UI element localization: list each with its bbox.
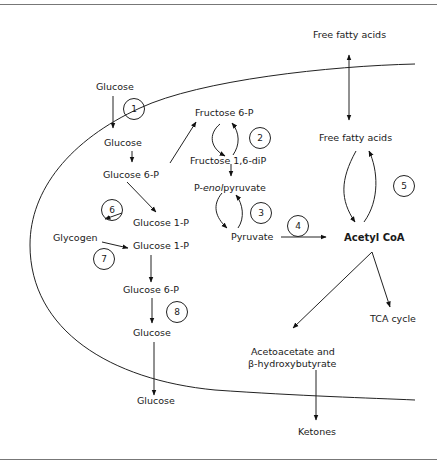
- label-glucose-6p-a: Glucose 6-P: [103, 169, 159, 180]
- step-marker-7: 7: [93, 248, 115, 270]
- step-marker-6: 6: [101, 199, 123, 221]
- label-glucose-6p-b: Glucose 6-P: [123, 284, 179, 295]
- label-ketones: Ketones: [298, 426, 336, 437]
- label-acetyl-coa: Acetyl CoA: [344, 232, 405, 243]
- step-marker-2: 2: [249, 127, 271, 149]
- label-glucose-1p-a: Glucose 1-P: [133, 217, 189, 228]
- step-marker-8: 8: [166, 301, 188, 323]
- step-marker-3: 3: [250, 202, 272, 224]
- pep-italic: enol: [203, 182, 223, 193]
- label-glucose-extracellular-top: Glucose: [96, 81, 134, 92]
- step-marker-5: 5: [393, 175, 415, 197]
- pep-suffix: pyruvate: [223, 182, 266, 193]
- step-marker-4: 4: [287, 215, 309, 237]
- pep-prefix: P-: [194, 182, 203, 193]
- label-glucose-extracellular-bottom: Glucose: [137, 395, 175, 406]
- label-glucose-intracellular-out: Glucose: [133, 327, 171, 338]
- label-free-fatty-acids-extracellular: Free fatty acids: [313, 29, 386, 40]
- label-glucose-1p-b: Glucose 1-P: [133, 240, 189, 251]
- label-phosphoenolpyruvate: P-enolpyruvate: [194, 182, 266, 193]
- label-pyruvate: Pyruvate: [231, 231, 273, 242]
- label-fructose-6p: Fructose 6-P: [195, 107, 253, 118]
- label-glucose-intracellular: Glucose: [104, 137, 142, 148]
- label-tca-cycle: TCA cycle: [370, 313, 416, 324]
- label-free-fatty-acids-intracellular: Free fatty acids: [319, 132, 392, 143]
- label-acetoacetate: Acetoacetate and: [251, 346, 335, 357]
- step-marker-1: 1: [123, 98, 145, 120]
- label-beta-hydroxybutyrate: β-hydroxybutyrate: [248, 358, 336, 369]
- label-fructose-16-dip: Fructose 1,6-diP: [190, 155, 266, 166]
- label-glycogen: Glycogen: [53, 232, 98, 243]
